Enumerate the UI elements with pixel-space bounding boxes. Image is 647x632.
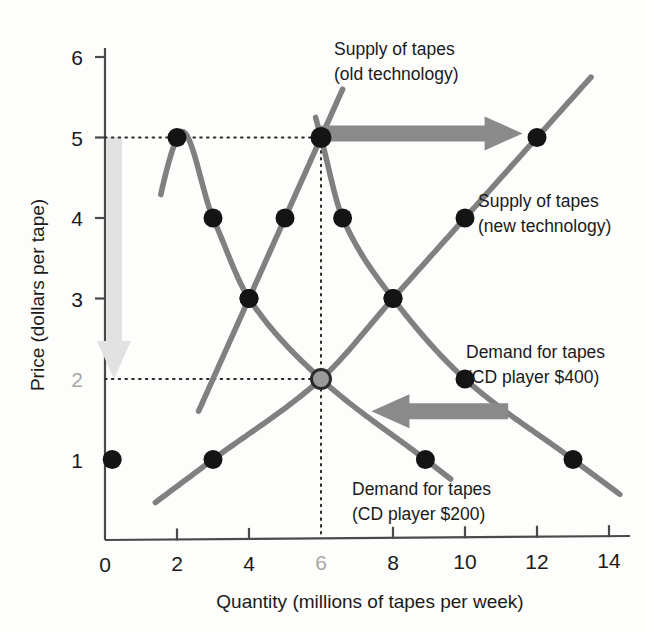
supply-shift-arrow [321, 116, 523, 150]
y-tick-label-6: 6 [71, 46, 83, 69]
data-point-demand_200-q8.9-p1 [416, 450, 435, 469]
y-tick-label-2: 2 [71, 368, 83, 391]
data-point-demand_200-q2-p5 [168, 128, 187, 147]
supply-old-label-line1: Supply of tapes [334, 39, 455, 59]
supply-old-label-line2: (old technology) [334, 64, 459, 84]
x-tick-label-8: 8 [387, 551, 399, 574]
data-point-demand_400-q6.6-p4 [333, 209, 352, 228]
data-point-demand_200-q4-p3 [240, 289, 259, 308]
y-tick-label-5: 5 [71, 127, 83, 150]
demand-400-label-line2: (CD player $400) [466, 367, 599, 387]
supply-new-label-line2: (new technology) [478, 216, 611, 236]
supply-shift-arrow-shape [321, 116, 523, 150]
supply-demand-chart-figure: 123456 02468101214 Price (dollars per ta… [0, 0, 647, 632]
x-tick-label-2: 2 [171, 552, 183, 575]
price-fall-arrow [97, 138, 131, 380]
demand-400-label-line1: Demand for tapes [466, 342, 605, 362]
data-point-supply_new-q3-p1 [204, 450, 223, 469]
data-point-supply_new-q12-p5 [528, 128, 547, 147]
data-point-demand_200-q0.2-p1 [103, 450, 122, 469]
x-axis-line [105, 536, 630, 540]
supply-new-label: Supply of tapes (new technology) [478, 191, 611, 236]
data-point-supply_new-q10-p4 [456, 209, 475, 228]
y-tick-label-1: 1 [71, 449, 83, 472]
reference-lines-group [105, 138, 321, 537]
demand-400-label: Demand for tapes (CD player $400) [466, 342, 605, 387]
data-point-demand_400-q8-p3 [384, 289, 403, 308]
x-axis-title: Quantity (millions of tapes per week) [216, 591, 523, 612]
demand-200-label: Demand for tapes (CD player $200) [352, 479, 491, 524]
equilibrium-point-new-equilibrium [312, 370, 331, 389]
x-tick-label-4: 4 [243, 552, 255, 575]
x-tick-label-6: 6 [315, 551, 327, 574]
x-tick-label-12: 12 [525, 550, 548, 573]
x-tick-label-10: 10 [453, 550, 476, 573]
equilibrium-point-old-equilibrium [311, 127, 332, 148]
y-tick-label-4: 4 [71, 207, 83, 230]
data-point-supply_old-q5-p4 [276, 209, 295, 228]
data-point-demand_200-q3-p4 [204, 209, 223, 228]
x-axis-tick-labels: 02468101214 [99, 549, 621, 576]
x-tick-label-14: 14 [597, 549, 621, 572]
x-tick-label-0: 0 [99, 553, 111, 576]
supply-new-label-line1: Supply of tapes [478, 191, 599, 211]
demand-200-label-line1: Demand for tapes [352, 479, 491, 499]
curve-demand_400 [316, 117, 620, 494]
demand-200-label-line2: (CD player $200) [352, 504, 485, 524]
supply-old-label: Supply of tapes (old technology) [334, 39, 459, 84]
y-tick-label-3: 3 [71, 288, 83, 311]
data-point-demand_400-q13-p1 [564, 450, 583, 469]
price-fall-arrow-shape [97, 138, 131, 380]
y-axis-tick-labels: 123456 [71, 46, 83, 472]
chart-canvas: 123456 02468101214 Price (dollars per ta… [0, 0, 647, 632]
y-axis-title: Price (dollars per tape) [27, 199, 48, 391]
